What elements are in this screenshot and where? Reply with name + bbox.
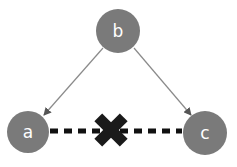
node-c-label: c [200, 123, 209, 143]
node-a-label: a [23, 122, 33, 142]
node-b-label: b [113, 21, 124, 41]
node-c: c [183, 111, 227, 155]
edge-b-to-c [134, 48, 191, 115]
node-a: a [7, 111, 49, 153]
diagram-canvas: b a c [0, 0, 237, 167]
edge-b-to-a [44, 48, 103, 115]
node-b: b [96, 9, 140, 53]
